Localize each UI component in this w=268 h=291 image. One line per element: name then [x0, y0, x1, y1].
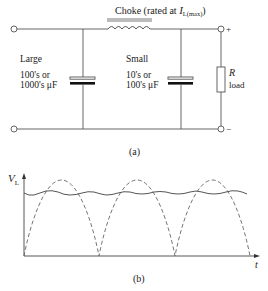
right-cap-plate-top — [168, 77, 193, 79]
smoothed-output-solid — [24, 191, 247, 196]
load-label: load — [229, 80, 245, 90]
caption-a: (a) — [129, 146, 140, 158]
load-symbol: R — [228, 67, 235, 78]
y-axis-arrow-icon — [22, 173, 26, 179]
positive-sign: + — [226, 24, 231, 34]
output-terminal-negative — [218, 126, 224, 132]
rectified-waveform-dashed — [24, 180, 250, 256]
input-terminal-bottom — [11, 126, 17, 132]
right-cap-value-line2: 100's μF — [126, 80, 158, 90]
output-terminal-positive — [218, 26, 224, 32]
choke-inductor-icon — [108, 27, 150, 30]
left-cap-value-line1: 100's or — [20, 70, 51, 80]
caption-b: (b) — [133, 273, 145, 285]
left-cap-plate-top — [70, 77, 95, 79]
negative-sign: − — [226, 124, 231, 134]
x-axis-arrow-icon — [254, 254, 260, 258]
filter-figure: Choke (rated at IL(max)) Large 100's or … — [0, 0, 268, 291]
waveform-plot — [22, 173, 260, 258]
right-cap-plate-bottom — [168, 82, 193, 85]
left-cap-plate-bottom — [70, 82, 95, 85]
left-cap-title: Large — [20, 54, 42, 64]
left-cap-value-line2: 1000's μF — [20, 80, 57, 90]
y-axis-label: VL — [8, 172, 19, 187]
load-resistor-icon — [217, 67, 225, 92]
right-cap-value-line1: 10's or — [126, 70, 152, 80]
right-cap-title: Small — [126, 54, 149, 64]
input-terminal-top — [11, 26, 17, 32]
x-axis-label: t — [255, 259, 258, 270]
choke-label: Choke (rated at IL(max)) — [115, 4, 206, 18]
